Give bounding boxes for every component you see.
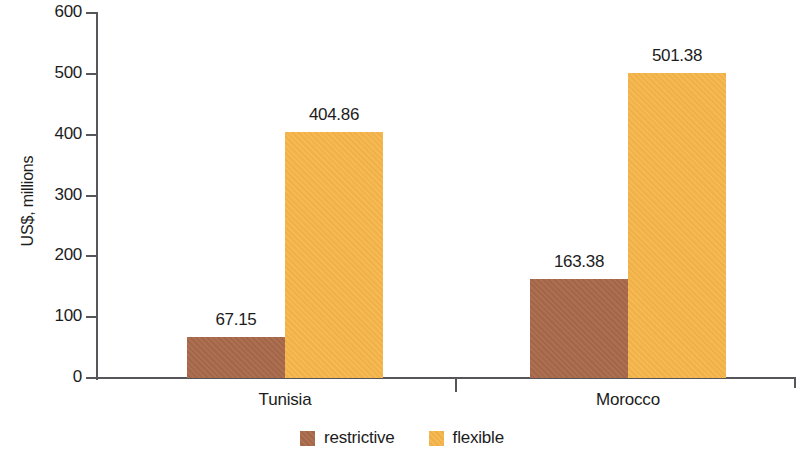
- bar-chart: US$, millions 6005004003002001000 67.154…: [0, 0, 804, 456]
- y-axis-tick-mark: [86, 12, 97, 14]
- legend-label-flexible: flexible: [453, 428, 504, 448]
- bar-morocco-flexible[interactable]: [628, 73, 726, 378]
- x-axis-category-label: Tunisia: [205, 390, 365, 410]
- x-axis-group-separator-tick: [455, 379, 457, 392]
- legend-swatch-flexible: [429, 431, 444, 446]
- y-axis-tick-label: 400: [10, 124, 82, 144]
- bar-value-label: 501.38: [628, 46, 726, 66]
- bar-tunisia-restrictive[interactable]: [187, 337, 285, 378]
- bar-morocco-restrictive[interactable]: [530, 279, 628, 378]
- chart-legend: restrictive flexible: [0, 428, 804, 448]
- y-axis-tick-label: 100: [10, 306, 82, 326]
- legend-label-restrictive: restrictive: [324, 428, 395, 448]
- y-axis-tick-mark: [86, 73, 97, 75]
- y-axis-tick-label: 600: [10, 2, 82, 22]
- legend-item-restrictive[interactable]: restrictive: [300, 428, 395, 448]
- bar-value-label: 163.38: [530, 252, 628, 272]
- bar-value-label: 404.86: [285, 105, 383, 125]
- y-axis-tick-mark: [86, 255, 97, 257]
- x-axis-end-tick: [794, 378, 796, 388]
- y-axis-tick-mark: [86, 377, 97, 379]
- y-axis-tick-label: 300: [10, 185, 82, 205]
- legend-item-flexible[interactable]: flexible: [429, 428, 504, 448]
- bar-tunisia-flexible[interactable]: [285, 132, 383, 378]
- bars-layer: 67.15404.86163.38501.38: [98, 0, 798, 378]
- x-axis-category-label: Morocco: [548, 390, 708, 410]
- y-axis-tick-mark: [86, 134, 97, 136]
- legend-swatch-restrictive: [300, 431, 315, 446]
- y-axis-tick-mark: [86, 195, 97, 197]
- bar-value-label: 67.15: [187, 310, 285, 330]
- y-axis-tick-label: 500: [10, 63, 82, 83]
- y-axis-tick-mark: [86, 316, 97, 318]
- y-axis-tick-label: 200: [10, 245, 82, 265]
- y-axis-tick-label: 0: [10, 367, 82, 387]
